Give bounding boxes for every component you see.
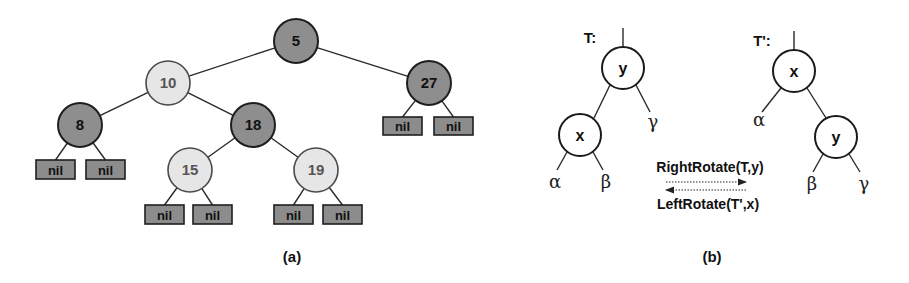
tree-node-8: 8	[58, 103, 102, 147]
edge-y-gamma	[636, 85, 650, 112]
tree-node-15: 15	[168, 148, 212, 192]
nil-leaf: nil	[193, 205, 232, 224]
edge-y-beta	[813, 154, 823, 172]
nil-edge	[165, 188, 178, 205]
tree-edge	[189, 48, 275, 76]
right-rotate-label: RightRotate(T,y)	[656, 159, 763, 175]
subtree-alpha: α	[549, 171, 561, 192]
subtree-beta: β	[601, 171, 611, 192]
node-key: 5	[292, 32, 300, 49]
tree-edge	[208, 138, 235, 157]
nil-leaf: nil	[323, 205, 362, 224]
rotation-arrows: RightRotate(T,y) LeftRotate(T',x)	[656, 159, 763, 212]
tree-node-18: 18	[231, 103, 275, 147]
nil-edge	[56, 143, 68, 160]
red-black-tree-panel: 510278181519 nilnilnilnilnilnilnilnil (a…	[36, 19, 473, 265]
node-x-label: x	[790, 63, 799, 80]
tree-edge	[317, 48, 408, 77]
nil-leaf: nil	[434, 117, 473, 135]
subtree-alpha: α	[753, 109, 765, 130]
caption-b: (b)	[702, 248, 721, 265]
nil-label: nil	[98, 163, 113, 178]
edge-y-x	[594, 85, 610, 118]
nil-label: nil	[205, 208, 220, 223]
nil-leaf: nil	[145, 205, 184, 224]
edge-x-y	[807, 88, 826, 118]
nil-edge	[403, 100, 416, 117]
nil-leaf: nil	[383, 117, 422, 135]
nil-leaf: nil	[36, 160, 75, 179]
node-key: 18	[245, 116, 262, 133]
tree-node-10: 10	[146, 61, 190, 105]
nil-label: nil	[446, 119, 461, 134]
nil-label: nil	[335, 208, 350, 223]
subtree-beta: β	[807, 173, 817, 194]
nil-label: nil	[48, 163, 63, 178]
edge-x-alpha	[557, 152, 567, 170]
edge-x-beta	[593, 152, 603, 170]
node-key: 15	[182, 161, 199, 178]
node-y-label: y	[832, 129, 841, 146]
tree-label-T-prime: T':	[753, 32, 771, 49]
tree-node-27: 27	[407, 61, 451, 105]
left-rotate-label: LeftRotate(T',x)	[657, 196, 759, 212]
nil-leaf: nil	[274, 205, 313, 224]
node-key: 10	[160, 74, 177, 91]
node-y-label: y	[619, 60, 628, 77]
right-tree-T-prime: T': x y α β γ	[753, 31, 869, 194]
tree-node-5: 5	[274, 19, 318, 63]
nil-edge	[329, 188, 342, 205]
nil-label: nil	[395, 119, 410, 134]
nil-edge	[294, 189, 305, 205]
tree-label-T: T:	[584, 29, 597, 46]
tree-node-19: 19	[294, 148, 338, 192]
node-key: 19	[308, 161, 325, 178]
subtree-gamma: γ	[648, 111, 659, 132]
nil-edge	[202, 189, 213, 205]
node-key: 8	[76, 116, 84, 133]
nil-edge	[93, 143, 106, 160]
nil-leaf: nil	[86, 160, 125, 179]
node-x-label: x	[576, 127, 585, 144]
caption-a: (a)	[283, 248, 301, 265]
rotation-panel: T: y x α β γ RightRotate(T,y) LeftRotate…	[549, 28, 869, 265]
figure: 510278181519 nilnilnilnilnilnilnilnil (a…	[0, 0, 909, 283]
node-key: 27	[421, 74, 438, 91]
tree-edge	[188, 93, 234, 116]
nil-label: nil	[286, 208, 301, 223]
tree-edge	[271, 138, 298, 157]
nil-edge	[442, 101, 454, 117]
diagram-canvas: 510278181519 nilnilnilnilnilnilnilnil (a…	[0, 0, 909, 283]
edge-y-gamma	[849, 154, 860, 172]
subtree-gamma: γ	[859, 173, 870, 194]
tree-edge	[100, 92, 148, 115]
nil-label: nil	[157, 208, 172, 223]
left-tree-T: T: y x α β γ	[549, 28, 658, 192]
